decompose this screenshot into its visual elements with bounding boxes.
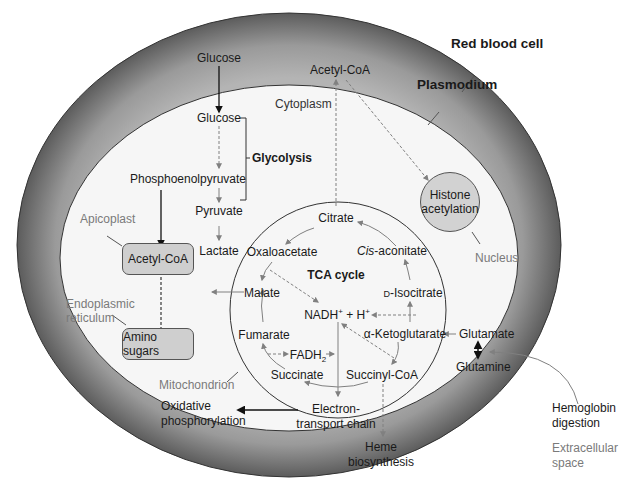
- heme-line2: biosynthesis: [348, 455, 414, 469]
- extracellular-label-line2: space: [552, 456, 584, 470]
- malate: Malate: [244, 286, 280, 300]
- cytoplasm-acetyl-coa: Acetyl-CoA: [310, 63, 370, 77]
- oxphos-line2: phosphorylation: [161, 414, 246, 428]
- alpha-ketoglutarate: α-Ketoglutarate: [364, 327, 446, 341]
- fumarate: Fumarate: [238, 328, 289, 342]
- glutamate: Glutamate: [459, 327, 514, 341]
- er-label-line1: Endoplasmic: [66, 297, 135, 311]
- cis-italic: Cis: [357, 244, 374, 258]
- er-amino-sugars-box: Amino sugars: [122, 328, 194, 360]
- nucleus-label: Nucleus: [475, 251, 518, 265]
- hemoglobin-line2: digestion: [552, 416, 600, 430]
- lactate: Lactate: [199, 244, 238, 258]
- mitochondrion-label: Mitochondrion: [159, 378, 234, 392]
- aconitate-rest: -aconitate: [374, 244, 427, 258]
- nucleus-histone-acetylation: Histoneacetylation: [420, 172, 480, 232]
- pyruvate: Pyruvate: [195, 204, 242, 218]
- plasmodium-metabolism-diagram: Red blood cell Plasmodium Cytoplasm Apic…: [0, 0, 632, 482]
- apicoplast-acetyl-coa-label: Acetyl-CoA: [128, 252, 188, 266]
- apicoplast-acetyl-coa-box: Acetyl-CoA: [122, 243, 194, 275]
- histone-line2: acetylation: [421, 202, 478, 216]
- tca-cycle-title: TCA cycle: [307, 268, 365, 282]
- plus-h: + H: [343, 308, 365, 322]
- hemoglobin-line1: Hemoglobin: [552, 401, 616, 415]
- fadh2: FADH2: [290, 348, 326, 362]
- fadh: FADH: [290, 348, 322, 362]
- heme-line1: Heme: [365, 440, 397, 454]
- glucose-extracellular: Glucose: [197, 51, 241, 65]
- oxphos-line1: Oxidative: [161, 399, 211, 413]
- apicoplast-label: Apicoplast: [80, 212, 135, 226]
- glutamine: Glutamine: [456, 360, 511, 374]
- cis-aconitate: Cis-aconitate: [357, 244, 427, 258]
- amino-sugars-label: Amino sugars: [123, 330, 193, 358]
- extracellular-label-line1: Extracellular: [552, 441, 618, 455]
- phosphoenolpyruvate: Phosphoenolpyruvate: [130, 172, 246, 186]
- fadh-sub: 2: [322, 355, 326, 364]
- nadh-h: NADH+ + H+: [304, 308, 370, 322]
- red-blood-cell-label: Red blood cell: [451, 37, 543, 51]
- etc-line2: transport chain: [296, 417, 375, 431]
- cytoplasm-label: Cytoplasm: [275, 97, 332, 111]
- succinyl-coa: Succinyl-CoA: [346, 368, 418, 382]
- citrate: Citrate: [318, 211, 353, 225]
- histone-line1: Histone: [430, 188, 471, 202]
- oxaloacetate: Oxaloacetate: [247, 245, 318, 259]
- nadh: NADH: [304, 308, 338, 322]
- glucose-cytoplasm: Glucose: [197, 111, 241, 125]
- d-isocitrate: D-Isocitrate: [383, 286, 442, 301]
- h-sup: +: [365, 307, 370, 316]
- plasmodium-label: Plasmodium: [417, 78, 497, 92]
- er-label-line2: reticulum: [66, 311, 115, 325]
- glycolysis-label: Glycolysis: [252, 151, 312, 165]
- etc-line1: Electron-: [312, 402, 360, 416]
- succinate: Succinate: [271, 368, 324, 382]
- isocitrate-rest: -Isocitrate: [390, 286, 443, 300]
